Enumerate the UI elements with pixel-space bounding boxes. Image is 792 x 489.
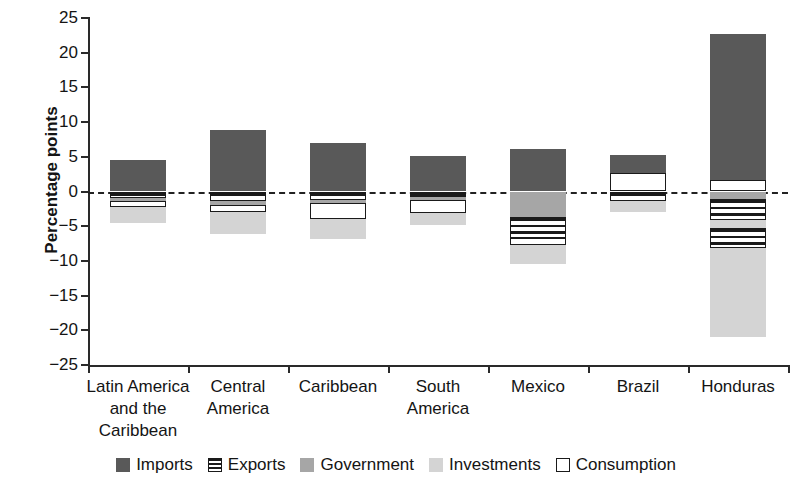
y-tick-label: −25 (49, 355, 78, 375)
bar-segment-exports (510, 217, 566, 238)
x-tick (588, 365, 590, 373)
bar-group[interactable] (110, 18, 166, 365)
government-swatch-icon (300, 458, 314, 472)
chart-container: Percentage points 2520151050−5−10−15−20−… (0, 0, 792, 489)
bar-series-group (88, 18, 788, 365)
y-tick-label: −15 (49, 286, 78, 306)
bar-segment-investments (410, 213, 466, 225)
x-axis-label: Central America (180, 376, 296, 420)
x-axis-label: Mexico (480, 376, 596, 398)
bar-segment-exports (610, 192, 666, 201)
legend-label: Investments (449, 455, 541, 475)
bar-segment-consumption (310, 203, 366, 218)
x-tick (188, 365, 190, 373)
bar-segment-exports (210, 192, 266, 202)
legend-label: Exports (228, 455, 286, 475)
x-tick (788, 365, 790, 373)
bar-segment-government (510, 192, 566, 218)
x-tick (288, 365, 290, 373)
y-tick-label: 5 (69, 147, 78, 167)
x-axis-label: Honduras (680, 376, 792, 398)
legend-item-consumption[interactable]: Consumption (556, 455, 676, 475)
y-tick-label: −20 (49, 320, 78, 340)
y-tick-label: 10 (59, 112, 78, 132)
bar-segment-investments (710, 220, 766, 228)
legend-label: Government (320, 455, 414, 475)
legend-item-investments[interactable]: Investments (429, 455, 541, 475)
imports-swatch-icon (116, 458, 130, 472)
bar-segment-investments (510, 245, 566, 264)
bar-segment-imports (710, 34, 766, 192)
bar-segment-imports (510, 149, 566, 191)
consumption-swatch-icon (556, 458, 570, 472)
legend-label: Consumption (576, 455, 676, 475)
legend-item-exports[interactable]: Exports (208, 455, 286, 475)
bar-segment-consumption (410, 200, 466, 213)
x-tick (388, 365, 390, 373)
legend-label: Imports (136, 455, 193, 475)
investments-swatch-icon (429, 458, 443, 472)
bar-segment-investments (210, 212, 266, 234)
bar-segment-investments (610, 201, 666, 212)
x-axis-line (88, 365, 788, 367)
bar-segment-imports (210, 130, 266, 192)
exports-swatch-icon (208, 458, 222, 472)
bar-segment-imports (310, 143, 366, 192)
y-tick-label: 25 (59, 8, 78, 28)
x-tick (488, 365, 490, 373)
y-tick-label: 0 (69, 182, 78, 202)
bar-segment-consumption (710, 180, 766, 192)
bar-group[interactable] (410, 18, 466, 365)
y-tick-label: −5 (59, 216, 78, 236)
bar-segment-consumption (610, 173, 666, 191)
bar-segment-exports (710, 199, 766, 220)
chart-legend: ImportsExportsGovernmentInvestmentsConsu… (0, 455, 792, 475)
bar-segment-imports (410, 156, 466, 191)
legend-item-government[interactable]: Government (300, 455, 414, 475)
bar-segment-imports (110, 160, 166, 192)
bar-segment-exports (110, 192, 166, 199)
x-axis-label: South America (380, 376, 496, 420)
legend-item-imports[interactable]: Imports (116, 455, 193, 475)
x-axis-label: Latin America and the Caribbean (80, 376, 196, 442)
x-axis-label: Caribbean (280, 376, 396, 398)
y-tick-label: 15 (59, 77, 78, 97)
plot-area: 2520151050−5−10−15−20−25 (88, 18, 788, 365)
bar-group[interactable] (710, 18, 766, 365)
x-tick (688, 365, 690, 373)
bar-segment-exports (310, 192, 366, 200)
y-tick-label: −10 (49, 251, 78, 271)
bar-group[interactable] (610, 18, 666, 365)
x-axis-label: Brazil (580, 376, 696, 398)
bar-group[interactable] (510, 18, 566, 365)
bar-group[interactable] (210, 18, 266, 365)
bar-group[interactable] (310, 18, 366, 365)
bar-segment-government (710, 192, 766, 200)
bar-segment-investments (310, 219, 366, 240)
bar-segment-investments (710, 248, 766, 336)
bar-segment-investments (110, 207, 166, 223)
bar-segment-consumption (510, 238, 566, 245)
bar-segment-exports (710, 228, 766, 249)
y-tick-label: 20 (59, 43, 78, 63)
x-tick (88, 365, 90, 373)
